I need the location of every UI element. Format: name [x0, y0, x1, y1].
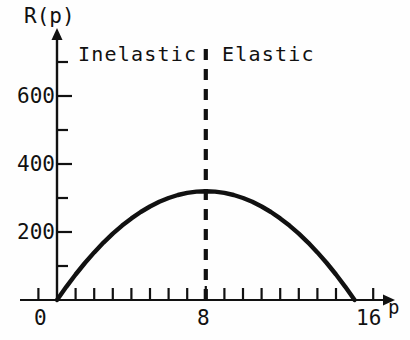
y-axis-arrowhead — [52, 28, 63, 40]
y-axis-ticks — [57, 62, 72, 266]
y-axis-label: R(p) — [24, 6, 75, 27]
x-tick-label-8: 8 — [197, 308, 210, 329]
x-axis-label: p — [388, 298, 399, 317]
region-label-elastic: Elastic — [222, 44, 315, 64]
y-tick-label-400: 400 — [17, 154, 55, 175]
chart-figure: R(p) p 600 400 200 0 8 16 Inelastic Elas… — [0, 0, 410, 340]
revenue-curve-plot — [0, 0, 410, 340]
y-tick-label-200: 200 — [17, 222, 55, 243]
revenue-curve — [57, 191, 355, 300]
region-label-inelastic: Inelastic — [78, 44, 197, 64]
x-tick-label-0: 0 — [34, 308, 47, 329]
y-tick-label-600: 600 — [17, 86, 55, 107]
x-tick-label-16: 16 — [356, 308, 381, 329]
